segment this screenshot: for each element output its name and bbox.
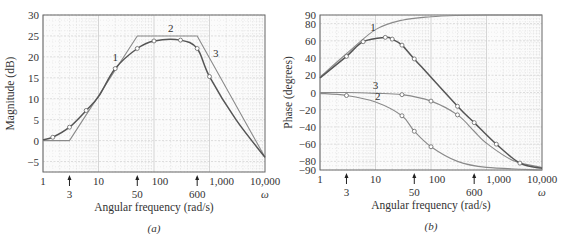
data-point-marker bbox=[390, 37, 394, 41]
data-point-marker bbox=[84, 108, 88, 112]
y-tick-label: 20 bbox=[28, 51, 40, 63]
x-tick-label: 100 bbox=[152, 175, 169, 187]
y-tick-label: 20 bbox=[305, 69, 317, 81]
y-axis-label: Magnitude (dB) bbox=[4, 56, 17, 130]
corner-frequency-arrow-icon bbox=[67, 175, 71, 186]
data-point-marker bbox=[400, 43, 404, 47]
curve-number-label: 1 bbox=[112, 51, 118, 63]
x-tick-label: 10 bbox=[370, 173, 382, 185]
panel-caption: (b) bbox=[425, 220, 438, 233]
panel-caption: (a) bbox=[148, 222, 161, 234]
x-tick-label: 100 bbox=[429, 173, 446, 185]
y-tick-label: 0 bbox=[311, 87, 317, 99]
y-tick-label: 10 bbox=[28, 93, 40, 105]
data-point-marker bbox=[208, 75, 212, 79]
data-point-marker bbox=[472, 121, 476, 125]
data-point-marker bbox=[383, 35, 387, 39]
data-point-marker bbox=[361, 40, 365, 44]
y-tick-label: 15 bbox=[28, 72, 40, 84]
x-tick-label: 10,000 bbox=[250, 175, 281, 187]
data-point-marker bbox=[494, 142, 498, 146]
x-tick-label: 1 bbox=[40, 175, 46, 187]
y-tick-label: 0 bbox=[34, 135, 40, 147]
data-point-marker bbox=[400, 114, 404, 118]
x-axis-label: Angular frequency (rad/s) bbox=[94, 201, 214, 214]
curve-number-label: 2 bbox=[168, 22, 174, 34]
x-tick-label: 10 bbox=[93, 175, 105, 187]
data-point-marker bbox=[412, 129, 416, 133]
data-point-marker bbox=[152, 39, 156, 43]
curve-number-label: 1 bbox=[370, 21, 376, 33]
x-tick-label: 1,000 bbox=[209, 175, 234, 187]
data-point-marker bbox=[400, 93, 404, 97]
data-point-marker bbox=[455, 113, 459, 117]
corner-frequency-label: 600 bbox=[466, 186, 483, 198]
curve-number-label: 3 bbox=[373, 79, 379, 91]
omega-symbol: ω bbox=[538, 186, 546, 198]
x-axis-label: Angular frequency (rad/s) bbox=[371, 199, 491, 212]
y-tick-label: −5 bbox=[27, 156, 39, 168]
data-point-marker bbox=[518, 161, 522, 165]
x-tick-label: 1,000 bbox=[486, 173, 511, 185]
curve-number-label: 3 bbox=[213, 47, 219, 59]
x-tick-label: 10,000 bbox=[527, 173, 558, 185]
corner-frequency-label: 600 bbox=[189, 188, 206, 200]
bode-plot-figure: 302520151050−51101001,00010,000ω350600An… bbox=[0, 0, 568, 234]
corner-frequency-label: 50 bbox=[132, 188, 144, 200]
data-point-marker bbox=[455, 104, 459, 108]
data-point-marker bbox=[344, 94, 348, 98]
data-point-marker bbox=[178, 38, 182, 42]
corner-frequency-arrow-icon bbox=[412, 173, 416, 184]
x-tick-label: 1 bbox=[317, 173, 323, 185]
data-point-marker bbox=[113, 67, 117, 71]
data-point-marker bbox=[429, 145, 433, 149]
corner-frequency-arrow-icon bbox=[472, 173, 476, 184]
y-tick-label: −40 bbox=[299, 121, 317, 133]
data-point-marker bbox=[429, 99, 433, 103]
omega-symbol: ω bbox=[261, 188, 269, 200]
corner-frequency-arrow-icon bbox=[195, 175, 199, 186]
curve-number-label: 2 bbox=[375, 90, 381, 102]
data-point-marker bbox=[412, 57, 416, 61]
y-tick-label: −90 bbox=[299, 164, 317, 176]
y-tick-label: 25 bbox=[28, 30, 40, 42]
data-point-marker bbox=[67, 125, 71, 129]
y-tick-label: −20 bbox=[299, 104, 317, 116]
y-axis-label: Phase (degrees) bbox=[282, 56, 295, 129]
y-tick-label: −60 bbox=[299, 138, 317, 150]
data-point-marker bbox=[135, 46, 139, 50]
corner-frequency-label: 50 bbox=[409, 186, 421, 198]
y-tick-label: 40 bbox=[305, 52, 317, 64]
data-point-marker bbox=[51, 135, 55, 139]
data-point-marker bbox=[344, 54, 348, 58]
phase-plot: 90806040200−20−40−60−80−901101001,00010,… bbox=[282, 9, 558, 233]
y-tick-label: 60 bbox=[305, 35, 317, 47]
y-tick-label: 5 bbox=[34, 114, 40, 126]
corner-frequency-label: 3 bbox=[344, 186, 350, 198]
magnitude-plot: 302520151050−51101001,00010,000ω350600An… bbox=[4, 9, 281, 234]
data-point-marker bbox=[195, 46, 199, 50]
corner-frequency-arrow-icon bbox=[344, 173, 348, 184]
y-tick-label: 30 bbox=[28, 9, 40, 21]
corner-frequency-arrow-icon bbox=[135, 175, 139, 186]
y-tick-label: 80 bbox=[305, 18, 317, 30]
corner-frequency-label: 3 bbox=[67, 188, 73, 200]
